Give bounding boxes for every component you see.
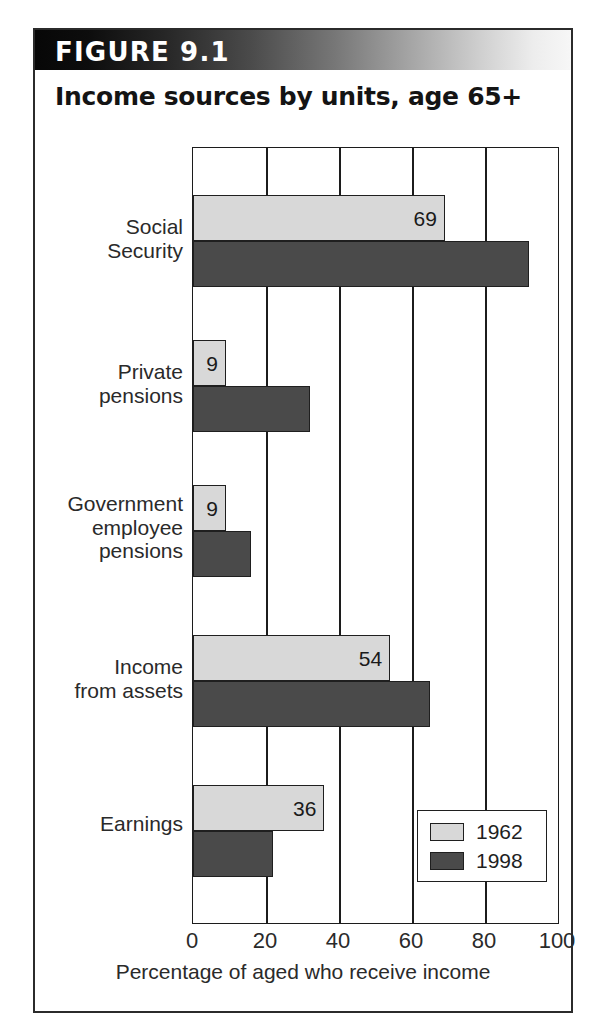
plot-area: 69 9 9 54 — [192, 147, 559, 924]
category-label-earnings: Earnings — [33, 812, 183, 836]
category-label-private-pensions: Private pensions — [33, 360, 183, 407]
figure-number-label: FIGURE 9.1 — [55, 37, 230, 67]
category-label-line: from assets — [33, 679, 183, 703]
bar-value-label: 36 — [293, 798, 316, 819]
bar-value-label: 54 — [359, 648, 382, 669]
x-tick-80: 80 — [472, 928, 496, 954]
category-label-line: Private — [33, 360, 183, 384]
category-label-line: Income — [33, 655, 183, 679]
legend-swatch-icon — [430, 852, 464, 870]
x-axis-title: Percentage of aged who receive income — [35, 960, 571, 984]
category-label-line: Security — [33, 239, 183, 263]
bar-social-security-1998 — [193, 241, 529, 287]
legend-entry-1998: 1998 — [430, 846, 546, 875]
legend-entry-1962: 1962 — [430, 817, 546, 846]
bar-private-pensions-1962: 9 — [193, 340, 226, 386]
x-tick-40: 40 — [326, 928, 350, 954]
bar-group-income-from-assets: 54 — [193, 635, 558, 727]
figure-header-band: FIGURE 9.1 — [35, 30, 571, 70]
x-tick-60: 60 — [399, 928, 423, 954]
bar-income-from-assets-1962: 54 — [193, 635, 390, 681]
category-label-line: employee — [33, 516, 183, 540]
legend-label: 1998 — [476, 850, 523, 871]
chart-legend: 1962 1998 — [417, 810, 547, 882]
x-axis-tick-labels: 0 20 40 60 80 100 — [192, 928, 557, 958]
bar-income-from-assets-1998 — [193, 681, 430, 727]
x-tick-100: 100 — [539, 928, 576, 954]
category-label-social-security: Social Security — [33, 215, 183, 262]
bar-value-label: 9 — [206, 353, 218, 374]
figure-frame: FIGURE 9.1 Income sources by units, age … — [33, 28, 573, 1013]
x-tick-20: 20 — [253, 928, 277, 954]
category-label-government-pensions: Government employee pensions — [33, 492, 183, 563]
bar-value-label: 69 — [413, 208, 436, 229]
bar-earnings-1962: 36 — [193, 785, 324, 831]
category-axis-labels: Social Security Private pensions Governm… — [35, 147, 183, 922]
category-label-line: pensions — [33, 384, 183, 408]
category-label-line: Earnings — [33, 812, 183, 836]
legend-label: 1962 — [476, 821, 523, 842]
bar-value-label: 9 — [206, 498, 218, 519]
bar-group-private-pensions: 9 — [193, 340, 558, 432]
chart-title: Income sources by units, age 65+ — [55, 82, 555, 111]
category-label-income-from-assets: Income from assets — [33, 655, 183, 702]
bar-social-security-1962: 69 — [193, 195, 445, 241]
category-label-line: Government — [33, 492, 183, 516]
category-label-line: Social — [33, 215, 183, 239]
bar-earnings-1998 — [193, 831, 273, 877]
bar-government-pensions-1962: 9 — [193, 485, 226, 531]
bar-government-pensions-1998 — [193, 531, 251, 577]
bar-group-government-pensions: 9 — [193, 485, 558, 577]
x-tick-0: 0 — [186, 928, 198, 954]
bar-private-pensions-1998 — [193, 386, 310, 432]
legend-swatch-icon — [430, 823, 464, 841]
category-label-line: pensions — [33, 539, 183, 563]
bar-group-social-security: 69 — [193, 195, 558, 287]
